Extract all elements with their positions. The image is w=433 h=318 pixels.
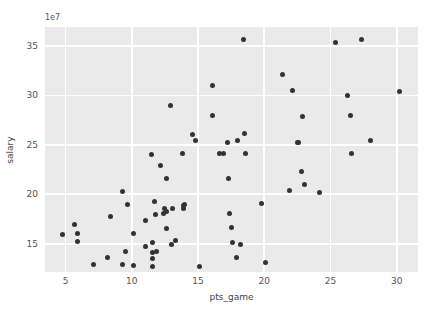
plot-area [45,27,418,272]
data-point [302,182,307,187]
data-point [143,218,148,223]
data-point [154,249,159,254]
data-point [131,231,136,236]
data-point [397,89,402,94]
gridline-vertical [330,27,332,272]
gridline-horizontal [45,144,418,146]
data-point [229,225,234,230]
data-point [108,214,113,219]
data-point [299,169,304,174]
data-point [359,37,364,42]
data-point [150,264,155,269]
data-point [238,242,243,247]
y-tick-label: 15 [27,239,38,249]
data-point [164,226,169,231]
data-point [197,264,202,269]
data-point [348,113,353,118]
data-point [143,244,148,249]
data-point [168,103,173,108]
data-point [368,138,373,143]
data-point [150,256,155,261]
data-point [242,131,247,136]
data-point [287,188,292,193]
x-tick-label: 25 [325,276,336,286]
data-point [210,83,215,88]
y-tick-label: 25 [27,140,38,150]
data-point [131,263,136,268]
data-point [153,212,158,217]
x-tick-label: 5 [63,276,69,286]
x-tick-label: 30 [391,276,402,286]
data-point [210,113,215,118]
gridline-horizontal [45,95,418,97]
data-point [120,262,125,267]
data-point [158,163,163,168]
y-axis-offset-label: 1e7 [45,13,60,22]
data-point [149,152,154,157]
data-point [123,249,128,254]
data-point [235,138,240,143]
data-point [164,209,169,214]
y-tick-label: 30 [27,90,38,100]
data-point [243,151,248,156]
data-point [170,206,175,211]
data-point [226,176,231,181]
x-tick-label: 10 [126,276,137,286]
data-point [259,201,264,206]
data-point [263,260,268,265]
data-point [290,88,295,93]
data-point [105,255,110,260]
data-point [169,242,174,247]
gridline-vertical [197,27,199,272]
x-axis-title: pts_game [45,292,418,302]
y-axis-title-text: salary [5,136,15,163]
x-tick-label: 20 [259,276,270,286]
gridline-vertical [263,27,265,272]
data-point [152,199,157,204]
y-tick-label: 35 [27,41,38,51]
gridline-vertical [396,27,398,272]
x-tick-label: 15 [192,276,203,286]
data-point [241,37,246,42]
data-point [75,231,80,236]
data-point [300,114,305,119]
scatter-chart-figure: 1e7 pts_game salary 51015202530152025303… [0,0,433,318]
gridline-horizontal [45,45,418,47]
data-point [91,262,96,267]
gridline-vertical [65,27,67,272]
data-point [234,255,239,260]
data-point [125,202,130,207]
gridline-horizontal [45,193,418,195]
y-axis-title: salary [4,27,16,272]
data-point [182,202,187,207]
data-point [164,176,169,181]
data-point [190,132,195,137]
data-point [280,72,285,77]
data-point [227,211,232,216]
y-tick-label: 20 [27,189,38,199]
data-point [72,222,77,227]
data-point [345,93,350,98]
data-point [221,151,226,156]
data-point [120,189,125,194]
data-point [180,151,185,156]
data-point [349,151,354,156]
